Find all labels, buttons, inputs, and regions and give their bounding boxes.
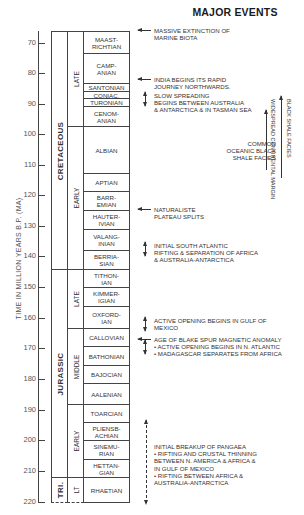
event-gulf-mexico: ACTIVE OPENING BEGINS IN GULF OF MEXICO (154, 317, 266, 331)
y-tick-label: 200 (10, 435, 36, 444)
arrow-left-icon (138, 30, 151, 31)
y-tick (38, 134, 45, 135)
y-tick (38, 287, 45, 288)
y-tick-label: 140 (10, 251, 36, 260)
y-tick-label: 220 (10, 497, 36, 506)
epoch-label: LATE (73, 71, 80, 87)
y-axis-line (38, 31, 39, 502)
period-cell: TRI. (51, 477, 68, 503)
black-shale-facies-label: COMMON OCEANIC BLACK SHALE FACIES (216, 140, 276, 162)
y-tick-label: 130 (10, 221, 36, 230)
epoch-cell: LATE (67, 269, 84, 329)
stage-cell: BATHONIAN (83, 346, 130, 366)
event-slow-spreading: SLOW SPREADING BEGINS BETWEEN AUSTRALIA … (154, 92, 252, 114)
event-blake-spur: AGE OF BLAKE SPUR MAGNETIC ANOMALY • ACT… (154, 336, 282, 358)
range-arrow-icon (145, 242, 146, 256)
stage-cell: HETTAN- GIAN (83, 459, 130, 478)
stage-cell: RHAETIAN (83, 477, 130, 503)
common-facies-range-icon (266, 110, 267, 170)
stage-cell: OXFORD- IAN (83, 306, 130, 329)
period-label: JURASSIC (56, 352, 65, 395)
epoch-cell: EARLY (67, 404, 84, 478)
stage-cell: VALANG- INIAN (83, 229, 130, 251)
stage-cell: CAMP- ANIAN (83, 53, 130, 84)
y-tick (38, 348, 45, 349)
stage-cell: TOARCIAN (83, 404, 130, 423)
event-india: INDIA BEGINS ITS RAPID JOURNEY NORTHWARD… (154, 76, 230, 90)
y-tick-label: 180 (10, 374, 36, 383)
epoch-cell: MIDDLE (67, 328, 84, 405)
stage-cell: APTIAN (83, 173, 130, 192)
epoch-cell: LT (67, 477, 84, 503)
stage-cell: BARR- EMIAN (83, 191, 130, 211)
event-south-atlantic: INITIAL SOUTH ATLANTIC RIFTING & SEPARAT… (154, 242, 258, 264)
y-tick (38, 226, 45, 227)
y-tick-label: 110 (10, 160, 36, 169)
y-tick-label: 100 (10, 129, 36, 138)
event-pangaea: INITIAL BREAKUP OF PANGAEA • RIFTING AND… (154, 443, 257, 486)
y-tick (38, 318, 45, 319)
range-arrow-icon (145, 92, 146, 106)
period-label: CRETACEOUS (56, 121, 65, 179)
y-tick (38, 502, 45, 503)
stage-cell: CENOM- ANIAN (83, 106, 130, 127)
y-tick-label: 90 (10, 99, 36, 108)
epoch-label: LT (73, 486, 80, 493)
y-tick-label: 120 (10, 190, 36, 199)
widespread-facies-side-label: WIDESPREAD CONTINENTAL MARGIN (270, 99, 276, 199)
event-naturaliste: NATURALISTE PLATEAU SPLITS (154, 206, 204, 220)
chart-title: MAJOR EVENTS (175, 6, 295, 18)
y-tick (38, 104, 45, 105)
arrow-left-icon (138, 209, 151, 210)
epoch-label: MIDDLE (73, 354, 80, 379)
epoch-label: EARLY (73, 431, 80, 452)
y-tick (38, 379, 45, 380)
dashed-range-arrow-icon (146, 420, 147, 504)
stage-cell: HAUTER- IVIAN (83, 210, 130, 230)
y-tick-label: 190 (10, 405, 36, 414)
y-tick (38, 440, 45, 441)
y-tick-label: 70 (10, 38, 36, 47)
range-arrow-icon (145, 340, 146, 354)
y-tick (38, 410, 45, 411)
y-tick (38, 165, 45, 166)
epoch-label: EARLY (73, 188, 80, 209)
y-tick (38, 43, 45, 44)
y-tick-label: 80 (10, 68, 36, 77)
y-tick-label: 170 (10, 343, 36, 352)
y-tick-label: 160 (10, 313, 36, 322)
y-tick (38, 73, 45, 74)
stage-cell: MAAST- RICHTIAN (83, 31, 130, 54)
epoch-cell: LATE (67, 31, 84, 127)
stage-cell: TITHON- IAN (83, 269, 130, 288)
epoch-cell: EARLY (67, 126, 84, 270)
stage-cell: ALBIAN (83, 126, 130, 174)
period-cell: CRETACEOUS (51, 31, 68, 270)
epoch-label: LATE (73, 291, 80, 307)
stage-cell: BAJOCIAN (83, 365, 130, 384)
stage-cell: SINEMU- RIAN (83, 440, 130, 460)
y-tick-label: 210 (10, 466, 36, 475)
period-label: TRI. (56, 482, 65, 498)
period-cell: JURASSIC (51, 269, 68, 478)
stage-cell: CALLOVIAN (83, 328, 130, 347)
range-arrow-icon (145, 317, 146, 331)
y-tick (38, 471, 45, 472)
arrow-left-icon (138, 79, 151, 80)
event-extinction: MASSIVE EXTINCTION OF MARINE BIOTA (154, 27, 230, 41)
stage-cell: BERRIA- SIAN (83, 250, 130, 270)
black-shale-side-label: BLACK SHALE FACIES (286, 99, 292, 158)
stage-cell: KIMMER- IGIAN (83, 287, 130, 307)
widespread-facies-range-icon (281, 96, 282, 178)
stage-cell: AALENIAN (83, 383, 130, 405)
y-tick (38, 256, 45, 257)
y-tick-label: 150 (10, 282, 36, 291)
stage-cell: PLIENSB- ACHIAN (83, 422, 130, 441)
y-tick (38, 195, 45, 196)
